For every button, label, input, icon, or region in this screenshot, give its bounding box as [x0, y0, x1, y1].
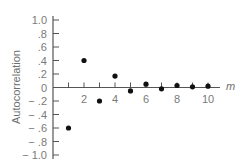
data-point	[66, 125, 71, 130]
data-point	[205, 84, 210, 89]
y-tick-label: .6	[38, 41, 47, 53]
y-axis-label: Autocorrelation	[10, 50, 22, 124]
x-tick-label: 10	[202, 93, 214, 105]
data-point	[143, 82, 148, 87]
y-tick-label: .2	[38, 68, 47, 80]
y-tick-label: − .8	[28, 136, 47, 148]
x-tick-label: 8	[174, 93, 180, 105]
data-point	[128, 88, 133, 93]
y-tick-label: 0	[41, 82, 47, 94]
data-point	[97, 98, 102, 103]
y-tick-label: − .4	[28, 109, 47, 121]
y-tick-label: − .6	[28, 122, 47, 134]
y-tick-label: − 1.0	[22, 149, 47, 161]
data-points	[66, 58, 211, 131]
x-tick-label: 6	[143, 93, 149, 105]
autocorrelation-chart: 1.0.8.6.4.20− .2− .4− .6− .8− 1.0 246810…	[0, 0, 247, 168]
data-point	[174, 83, 179, 88]
y-tick-label: 1.0	[32, 14, 47, 26]
data-point	[112, 73, 117, 78]
y-tick-label: .8	[38, 28, 47, 40]
y-tick-label: .4	[38, 55, 47, 67]
data-point	[159, 86, 164, 91]
data-point	[190, 84, 195, 89]
x-tick-label: 4	[112, 93, 118, 105]
data-point	[81, 58, 86, 63]
x-tick-label: 2	[81, 93, 87, 105]
y-tick-label: − .2	[28, 95, 47, 107]
x-axis-label: m	[226, 80, 235, 92]
